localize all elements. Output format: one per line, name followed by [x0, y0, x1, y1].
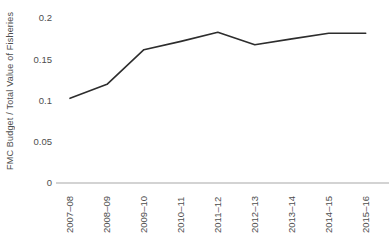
y-tick-label: 0.15 — [20, 54, 52, 66]
x-tick-label: 2015–16 — [360, 189, 371, 241]
line-chart: FMC Budget / Total Value of Fisheries 00… — [0, 0, 392, 245]
x-tick-label: 2011–12 — [212, 189, 223, 241]
x-tick-label: 2013–14 — [286, 189, 297, 241]
y-tick-label: 0.05 — [20, 136, 52, 148]
x-tick-label: 2007–08 — [64, 189, 75, 241]
y-axis-title: FMC Budget / Total Value of Fisheries — [5, 8, 15, 174]
x-tick-label: 2014–15 — [323, 189, 334, 241]
y-tick-label: 0.2 — [20, 12, 52, 24]
x-tick-label: 2009–10 — [138, 189, 149, 241]
data-line — [70, 32, 366, 98]
y-tick-label: 0 — [20, 177, 52, 189]
x-tick-label: 2010–11 — [175, 189, 186, 241]
x-tick-label: 2008–09 — [101, 189, 112, 241]
x-tick-label: 2012–13 — [249, 189, 260, 241]
y-tick-label: 0.1 — [20, 95, 52, 107]
